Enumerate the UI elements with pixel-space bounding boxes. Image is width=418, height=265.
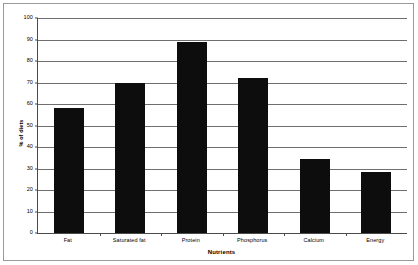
x-axis-tick-label: Protein: [160, 238, 222, 244]
x-axis-tick-label: Calcium: [283, 238, 345, 244]
y-axis-tick-label: 50: [27, 123, 33, 129]
bar-slot: [346, 18, 408, 233]
y-axis-title: % of diets: [19, 119, 25, 146]
bar[interactable]: [361, 172, 391, 233]
x-axis-title: Nutrients: [37, 249, 406, 255]
bar[interactable]: [115, 83, 145, 234]
x-axis-tick-label: Energy: [345, 238, 407, 244]
y-axis-tick-label: 40: [27, 144, 33, 150]
bar[interactable]: [238, 78, 268, 233]
bar-chart-figure: % of diets 0102030405060708090100 FatSat…: [0, 0, 418, 265]
bar-slot: [100, 18, 162, 233]
bar-slot: [161, 18, 223, 233]
x-axis-tick-label: Fat: [37, 238, 99, 244]
x-axis-tick-mark: [100, 233, 101, 236]
bar[interactable]: [54, 108, 84, 233]
y-axis-tick-label: 10: [27, 209, 33, 215]
x-axis-ticks: [38, 233, 407, 237]
y-axis-tick-label: 90: [27, 37, 33, 43]
x-axis-tick-label: Phosphorus: [222, 238, 284, 244]
bar-slot: [223, 18, 285, 233]
plot-area: 0102030405060708090100: [37, 18, 407, 234]
x-axis-tick-mark: [346, 233, 347, 236]
y-axis-tick-label: 20: [27, 187, 33, 193]
bar-series: [38, 18, 407, 233]
y-axis-tick-label: 0: [30, 230, 33, 236]
y-axis-tick-label: 70: [27, 80, 33, 86]
bar-slot: [38, 18, 100, 233]
bar[interactable]: [300, 159, 330, 233]
y-axis-tick-label: 60: [27, 101, 33, 107]
bar-slot: [284, 18, 346, 233]
bar[interactable]: [177, 42, 207, 233]
x-axis-tick-mark: [284, 233, 285, 236]
y-axis-tick-label: 80: [27, 58, 33, 64]
x-axis-tick-mark: [223, 233, 224, 236]
y-axis-tick-label: 30: [27, 166, 33, 172]
x-axis-tick-labels: FatSaturated fatProteinPhosphorusCalcium…: [37, 238, 406, 244]
y-axis-tick-label: 100: [24, 15, 33, 21]
x-axis-tick-mark: [161, 233, 162, 236]
x-axis-tick-label: Saturated fat: [99, 238, 161, 244]
